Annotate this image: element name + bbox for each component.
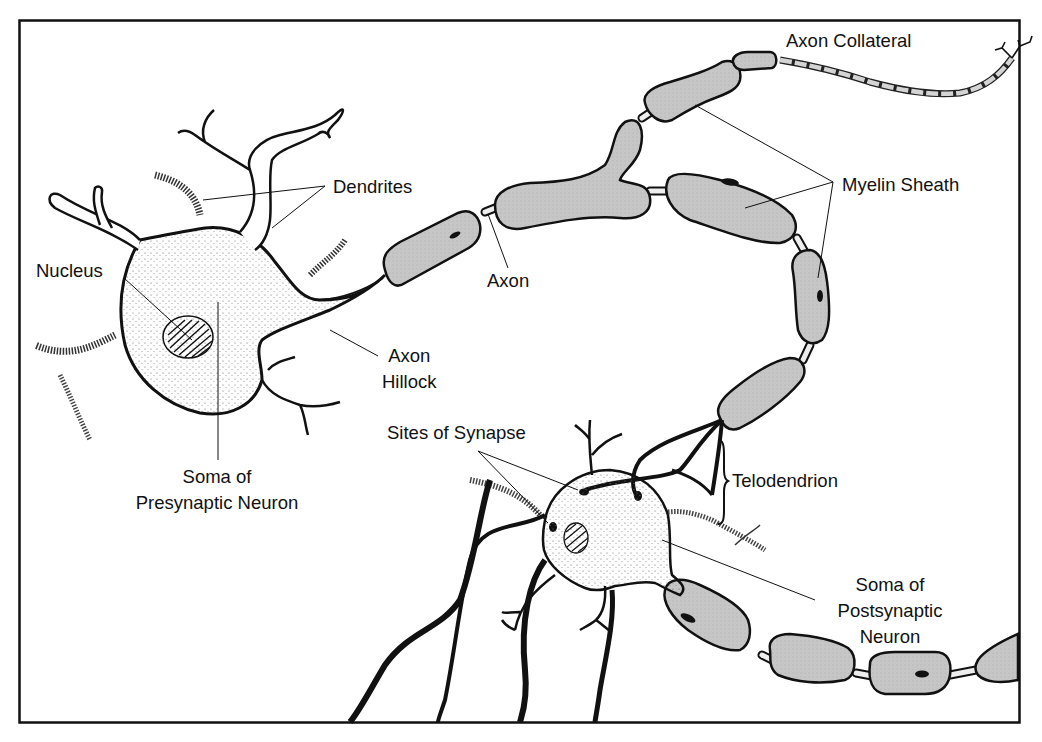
label-sites-of-synapse: Sites of Synapse <box>387 420 526 446</box>
label-soma-postsynaptic-line2: Postsynaptic <box>820 598 960 624</box>
label-myelin-sheath: Myelin Sheath <box>842 172 959 198</box>
label-soma-postsynaptic-line1: Soma of <box>820 572 960 598</box>
label-soma-presynaptic-line2: Presynaptic Neuron <box>112 490 322 516</box>
label-axon-hillock-line1: Axon <box>382 343 436 369</box>
label-axon-collateral: Axon Collateral <box>786 28 911 54</box>
label-dendrites: Dendrites <box>333 174 412 200</box>
label-soma-presynaptic: Soma of Presynaptic Neuron <box>112 464 322 516</box>
postsynaptic-soma <box>350 420 765 722</box>
label-axon: Axon <box>487 268 529 294</box>
label-axon-hillock-line2: Hillock <box>382 369 436 395</box>
label-axon-hillock: Axon Hillock <box>382 343 436 395</box>
label-soma-postsynaptic: Soma of Postsynaptic Neuron <box>820 572 960 650</box>
label-soma-postsynaptic-line3: Neuron <box>820 624 960 650</box>
label-soma-presynaptic-line1: Soma of <box>112 464 322 490</box>
label-telodendrion: Telodendrion <box>732 468 838 494</box>
label-nucleus: Nucleus <box>36 258 103 284</box>
